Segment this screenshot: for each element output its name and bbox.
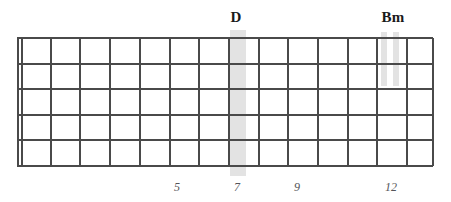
nut-line-inner (21, 38, 23, 166)
fret-line (317, 38, 319, 166)
chord-highlight-band (393, 32, 399, 86)
fret-line (50, 38, 52, 166)
fret-number-7: 7 (234, 181, 240, 193)
fret-line (432, 38, 434, 166)
chord-highlight-band (381, 32, 387, 86)
fret-line (347, 38, 349, 166)
fret-line (287, 38, 289, 166)
chord-label-d: D (230, 10, 241, 25)
fret-line (169, 38, 171, 166)
chord-highlight-band (230, 30, 246, 176)
fret-line (406, 38, 408, 166)
fret-line (228, 38, 230, 166)
fret-line (79, 38, 81, 166)
fret-number-9: 9 (294, 181, 300, 193)
fret-number-5: 5 (174, 181, 180, 193)
fretboard-diagram: DBm 57912 (0, 0, 451, 202)
fret-line (139, 38, 141, 166)
chord-label-bm: Bm (382, 10, 405, 25)
fret-number-12: 12 (385, 181, 397, 193)
fret-line (376, 38, 378, 166)
fret-line (109, 38, 111, 166)
nut-line-outer (17, 38, 19, 166)
fret-line (258, 38, 260, 166)
fret-line (198, 38, 200, 166)
